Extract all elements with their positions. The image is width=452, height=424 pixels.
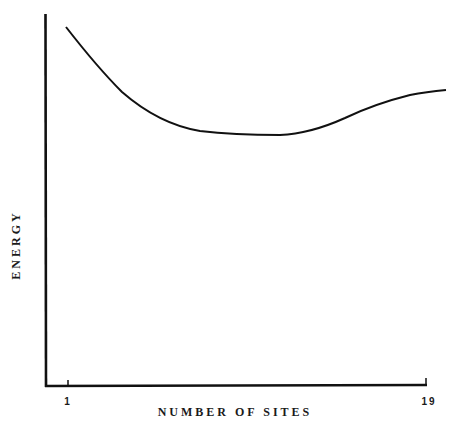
x-tick-label-start: 1 [64,396,72,407]
x-axis [45,385,427,386]
energy-curve [66,27,446,135]
x-axis-title: NUMBER OF SITES [158,405,313,419]
y-axis-title: ENERGY [9,210,23,279]
y-axis [46,14,47,387]
x-tick-label-end: 19 [421,396,436,407]
energy-chart: 1 19 NUMBER OF SITES ENERGY [0,0,452,424]
